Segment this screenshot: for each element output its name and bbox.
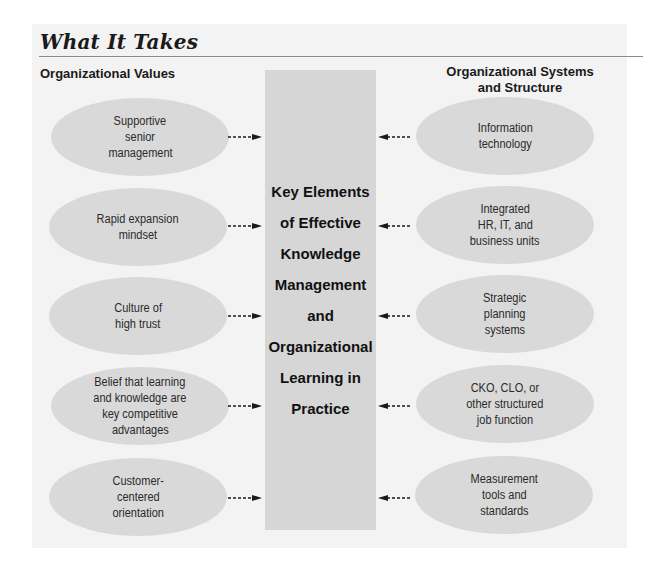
dashed-arrow-left-icon	[378, 312, 412, 320]
ellipse-text: Culture of	[114, 300, 162, 316]
ellipse-text: senior	[125, 129, 155, 145]
ellipse-text: key competitive	[102, 406, 178, 422]
dashed-arrow-left-icon	[378, 402, 412, 410]
dashed-arrow-right-icon	[228, 494, 262, 502]
center-line: of Effective	[280, 207, 361, 238]
ellipse-text: Measurement	[470, 471, 537, 487]
system-ellipse-integrated-units: Integrated HR, IT, and business units	[416, 186, 594, 264]
center-line: Knowledge	[280, 238, 360, 269]
center-line: Organizational	[268, 331, 372, 362]
ellipse-text: systems	[485, 322, 525, 338]
left-column-heading: Organizational Values	[40, 66, 175, 82]
ellipse-text: Strategic	[483, 290, 526, 306]
dashed-arrow-left-icon	[378, 133, 412, 141]
ellipse-text: and knowledge are	[94, 390, 187, 406]
center-line: Key Elements	[271, 176, 369, 207]
ellipse-text: Integrated	[480, 201, 530, 217]
value-ellipse-rapid-expansion: Rapid expansion mindset	[49, 188, 227, 266]
center-line: Learning in	[280, 362, 361, 393]
system-ellipse-cko-clo: CKO, CLO, or other structured job functi…	[416, 365, 594, 443]
ellipse-text: management	[108, 145, 172, 161]
value-ellipse-customer-centered: Customer- centered orientation	[49, 458, 227, 536]
center-line: and	[307, 300, 334, 331]
ellipse-text: mindset	[119, 227, 158, 243]
ellipse-text: tools and	[482, 487, 527, 503]
key-elements-box: Key Elements of Effective Knowledge Mana…	[265, 70, 376, 530]
ellipse-text: HR, IT, and	[477, 217, 532, 233]
dashed-arrow-right-icon	[228, 133, 262, 141]
title-divider	[39, 56, 643, 57]
right-column-heading: Organizational Systems and Structure	[405, 64, 635, 96]
dashed-arrow-left-icon	[378, 222, 412, 230]
ellipse-text: planning	[484, 306, 526, 322]
center-line: Management	[275, 269, 367, 300]
ellipse-text: Supportive	[114, 113, 167, 129]
system-ellipse-measurement: Measurement tools and standards	[415, 456, 593, 534]
ellipse-text: CKO, CLO, or	[471, 380, 539, 396]
right-heading-line: and Structure	[405, 80, 635, 96]
value-ellipse-high-trust: Culture of high trust	[49, 277, 227, 355]
dashed-arrow-right-icon	[228, 312, 262, 320]
ellipse-text: orientation	[112, 505, 163, 521]
ellipse-text: other structured	[466, 396, 543, 412]
value-ellipse-learning-advantage: Belief that learning and knowledge are k…	[51, 367, 229, 445]
ellipse-text: Belief that learning	[94, 374, 185, 390]
ellipse-text: high trust	[115, 316, 160, 332]
value-ellipse-supportive-management: Supportive senior management	[51, 98, 229, 176]
ellipse-text: standards	[480, 503, 528, 519]
ellipse-text: job function	[477, 412, 533, 428]
ellipse-text: business units	[470, 233, 540, 249]
dashed-arrow-right-icon	[228, 222, 262, 230]
ellipse-text: Rapid expansion	[97, 211, 179, 227]
center-line: Practice	[291, 393, 349, 424]
ellipse-text: Information	[477, 120, 532, 136]
diagram-title: What It Takes	[40, 30, 198, 54]
dashed-arrow-left-icon	[378, 494, 412, 502]
ellipse-text: Customer-	[112, 473, 163, 489]
ellipse-text: centered	[117, 489, 160, 505]
ellipse-text: advantages	[112, 422, 169, 438]
system-ellipse-information-technology: Information technology	[416, 97, 594, 175]
right-heading-line: Organizational Systems	[405, 64, 635, 80]
system-ellipse-strategic-planning: Strategic planning systems	[416, 275, 594, 353]
dashed-arrow-right-icon	[228, 402, 262, 410]
ellipse-text: technology	[478, 136, 531, 152]
